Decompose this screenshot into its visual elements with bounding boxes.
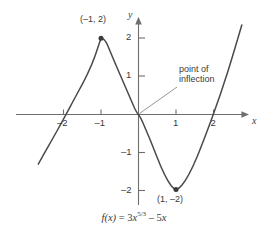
inflection-annotation-line2: inflection xyxy=(179,74,215,84)
y-tick-label-1: 1 xyxy=(126,70,131,81)
plot-canvas xyxy=(0,0,268,232)
equation-exponent1: 5/3 xyxy=(137,210,146,218)
x-tick-label--1: –1 xyxy=(95,118,106,129)
local-maximum-point xyxy=(99,36,104,41)
x-axis-label: x xyxy=(252,115,256,127)
inflection-annotation-line1: point of xyxy=(179,64,215,74)
local-maximum-label: (–1, 2) xyxy=(80,14,106,24)
inflection-leader-line xyxy=(140,87,178,114)
x-tick-label-2: 2 xyxy=(211,118,216,129)
x-tick-label-1: 1 xyxy=(173,118,178,129)
y-tick-label--1: –1 xyxy=(121,147,132,158)
y-tick-label-2: 2 xyxy=(126,32,131,43)
inflection-annotation: point of inflection xyxy=(179,64,215,85)
function-graph-figure: y x –2 –1 1 2 2 1 –1 –2 (–1, 2) (1, –2) … xyxy=(0,0,268,232)
y-tick-label--2: –2 xyxy=(121,185,132,196)
equation-lhs: f(x) xyxy=(101,212,116,223)
equation-equals: = xyxy=(119,212,125,223)
x-tick-label--2: –2 xyxy=(57,118,68,129)
equation-base2: x xyxy=(162,212,167,223)
local-minimum-label: (1, –2) xyxy=(157,194,183,204)
local-minimum-point xyxy=(174,187,179,192)
y-axis-label: y xyxy=(128,9,132,21)
equation-caption: f(x) = 3x5/3 – 5x xyxy=(0,210,268,223)
function-curve xyxy=(38,25,242,189)
